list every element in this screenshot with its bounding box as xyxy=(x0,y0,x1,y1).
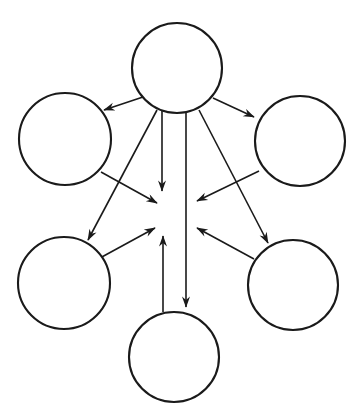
diagram-canvas xyxy=(0,0,358,418)
edges-layer xyxy=(88,97,268,312)
edge-top-to-upper-left xyxy=(104,97,143,110)
edge-lower-left-to-center xyxy=(100,228,155,258)
node-upper-left[interactable] xyxy=(19,93,111,185)
edge-top-to-upper-right xyxy=(213,98,254,117)
edge-lower-right-to-center xyxy=(197,228,254,259)
node-upper-right[interactable] xyxy=(255,96,345,186)
node-lower-left[interactable] xyxy=(18,237,110,329)
diagram-svg xyxy=(0,0,358,418)
node-lower-right[interactable] xyxy=(248,240,338,330)
node-top[interactable] xyxy=(132,23,222,113)
nodes-layer xyxy=(18,23,345,402)
edge-upper-right-to-center xyxy=(197,171,259,201)
node-bottom[interactable] xyxy=(129,312,219,402)
